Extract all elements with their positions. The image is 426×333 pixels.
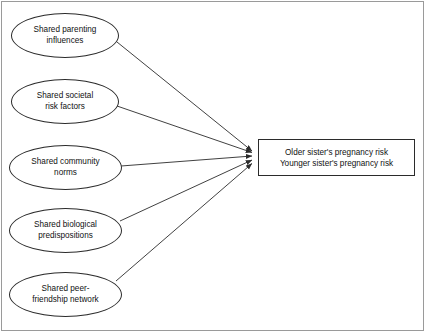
edge-peer-to-outcome — [116, 164, 252, 282]
node-label: Shared societal risk factors — [31, 91, 99, 112]
node-label: Shared biological predispositions — [28, 220, 103, 241]
node-label: Shared community norms — [25, 157, 105, 178]
node-pregnancy-risk-outcome: Older sister's pregnancy risk Younger si… — [258, 139, 415, 176]
edge-biological-to-outcome — [120, 160, 252, 221]
node-shared-community-norms: Shared community norms — [9, 145, 122, 190]
node-label: Shared parenting influences — [28, 25, 103, 46]
diagram-canvas: Shared parenting influences Shared socie… — [0, 0, 426, 333]
edge-parenting-to-outcome — [117, 42, 252, 151]
node-shared-societal-risk-factors: Shared societal risk factors — [11, 79, 119, 124]
edge-societal-to-outcome — [117, 106, 252, 153]
node-shared-peer-friendship-network: Shared peer- friendship network — [9, 272, 122, 317]
node-shared-parenting-influences: Shared parenting influences — [11, 13, 119, 58]
node-label: Shared peer- friendship network — [26, 284, 104, 305]
edge-community-to-outcome — [121, 156, 252, 166]
node-label: Older sister's pregnancy risk Younger si… — [276, 147, 397, 169]
node-shared-biological-predispositions: Shared biological predispositions — [9, 208, 122, 253]
